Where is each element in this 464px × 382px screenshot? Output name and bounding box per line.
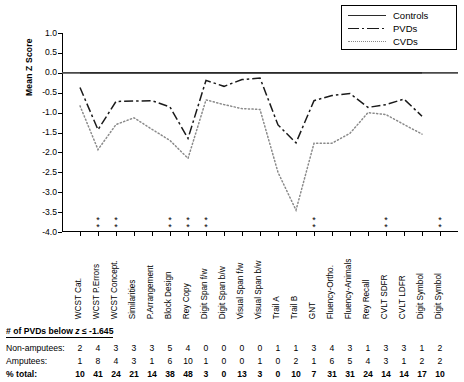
x-category-label: Digit Span b/w — [219, 266, 227, 319]
table-cell: 1 — [366, 342, 371, 355]
y-tick-label: -4.0 — [42, 228, 57, 237]
y-tick-mark — [58, 152, 62, 153]
table-row-label: % total: — [6, 368, 37, 381]
table-cell: 2 — [420, 355, 425, 368]
x-category-label: WCST Concept. — [111, 260, 119, 319]
table-cell: 24 — [363, 368, 373, 381]
x-tick-mark — [134, 232, 135, 236]
y-tick-label: -2.5 — [42, 168, 57, 177]
series-lines — [62, 33, 458, 232]
table-cell: 21 — [129, 368, 139, 381]
x-tick-mark — [170, 232, 171, 236]
table-cell: 14 — [147, 368, 157, 381]
x-tick-mark — [422, 232, 423, 236]
significance-marker: ** — [168, 217, 172, 231]
table-cell: 1 — [312, 355, 317, 368]
table-cell: 0 — [222, 342, 227, 355]
x-category-label: WCST P.Errors — [93, 264, 101, 319]
table-cell: 14 — [381, 368, 391, 381]
legend-entry-controls: Controls — [347, 9, 452, 22]
table-row: % total:10412421143848301330107313124141… — [6, 368, 458, 381]
x-tick-mark — [260, 232, 261, 236]
y-tick-mark — [58, 232, 62, 233]
table-cell: 3 — [204, 368, 209, 381]
x-category-label: P.Arrangement — [147, 265, 155, 319]
x-tick-mark — [224, 232, 225, 236]
y-tick-mark — [58, 73, 62, 74]
table-cell: 7 — [312, 368, 317, 381]
x-tick-mark — [80, 232, 81, 236]
table-cell: 0 — [240, 355, 245, 368]
significance-marker: ** — [384, 217, 388, 231]
x-tick-mark — [116, 232, 117, 236]
y-tick-mark — [58, 33, 62, 34]
table-cell: 0 — [258, 342, 263, 355]
summary-table-title-prefix: # of PVDs below — [6, 326, 75, 336]
table-cell: 3 — [258, 368, 263, 381]
x-category-label: Digit Symbol — [417, 273, 425, 319]
y-tick-label: -1.0 — [42, 108, 57, 117]
significance-marker: ** — [96, 217, 100, 231]
table-cell: 0 — [204, 342, 209, 355]
table-row: Amputees:1843161010010216543122 — [6, 355, 458, 368]
x-category-label: Trail B — [291, 296, 299, 319]
x-tick-mark — [152, 232, 153, 236]
significance-marker: ** — [312, 217, 316, 231]
x-category-label: Fluency-Ortho. — [327, 265, 335, 319]
table-cell: 4 — [330, 342, 335, 355]
chart-figure: Controls PVDs CVDs Mean Z Score 1.00.50.… — [0, 0, 464, 382]
x-axis-category-labels: WCST Cat.WCST P.ErrorsWCST Concept.Simil… — [62, 237, 458, 319]
significance-marker: ** — [186, 217, 190, 231]
table-cell: 1 — [294, 342, 299, 355]
x-tick-mark — [188, 232, 189, 236]
table-cell: 5 — [168, 342, 173, 355]
y-tick-label: 1.0 — [45, 29, 57, 38]
x-category-label: CVLT LDFR — [399, 275, 407, 319]
y-tick-label: -3.5 — [42, 208, 57, 217]
y-tick-mark — [58, 172, 62, 173]
table-cell: 4 — [114, 355, 119, 368]
x-tick-mark — [98, 232, 99, 236]
x-category-label: Similarities — [129, 279, 137, 319]
table-cell: 1 — [204, 355, 209, 368]
plot-area — [62, 33, 458, 232]
x-category-label: Digit Span f/w — [201, 268, 209, 319]
x-category-label: Visual Span f/w — [237, 263, 245, 319]
table-cell: 14 — [399, 368, 409, 381]
table-cell: 2 — [294, 355, 299, 368]
table-cell: 31 — [327, 368, 337, 381]
summary-table: # of PVDs below z ≤ -1.645 Non-amputees:… — [6, 320, 458, 381]
table-cell: 1 — [150, 355, 155, 368]
table-row-label: Amputees: — [6, 355, 47, 368]
table-cell: 17 — [417, 368, 427, 381]
table-cell: 3 — [384, 342, 389, 355]
table-cell: 6 — [168, 355, 173, 368]
table-cell: 1 — [402, 355, 407, 368]
significance-marker: ** — [204, 217, 208, 231]
table-row-label: Non-amputees: — [6, 342, 65, 355]
x-tick-mark — [350, 232, 351, 236]
table-cell: 3 — [384, 355, 389, 368]
x-tick-mark — [314, 232, 315, 236]
x-tick-mark — [332, 232, 333, 236]
table-cell: 4 — [366, 355, 371, 368]
table-cell: 1 — [258, 355, 263, 368]
y-tick-label: -1.5 — [42, 128, 57, 137]
x-category-label: Visual Span b/w — [255, 260, 263, 319]
table-cell: 8 — [96, 355, 101, 368]
table-cell: 3 — [348, 342, 353, 355]
y-tick-mark — [58, 93, 62, 94]
x-tick-mark — [242, 232, 243, 236]
table-cell: 24 — [111, 368, 121, 381]
table-row: Non-amputees:243335400001134313312 — [6, 342, 458, 355]
x-tick-mark — [368, 232, 369, 236]
significance-marker: ** — [114, 217, 118, 231]
x-category-label: Rey Copy — [183, 283, 191, 319]
y-tick-label: 0.5 — [45, 48, 57, 57]
table-cell: 3 — [312, 342, 317, 355]
table-cell: 5 — [348, 355, 353, 368]
table-cell: 3 — [114, 342, 119, 355]
x-category-label: Rey Recall — [363, 279, 371, 319]
series-line-pvds — [80, 78, 422, 143]
y-tick-mark — [58, 113, 62, 114]
